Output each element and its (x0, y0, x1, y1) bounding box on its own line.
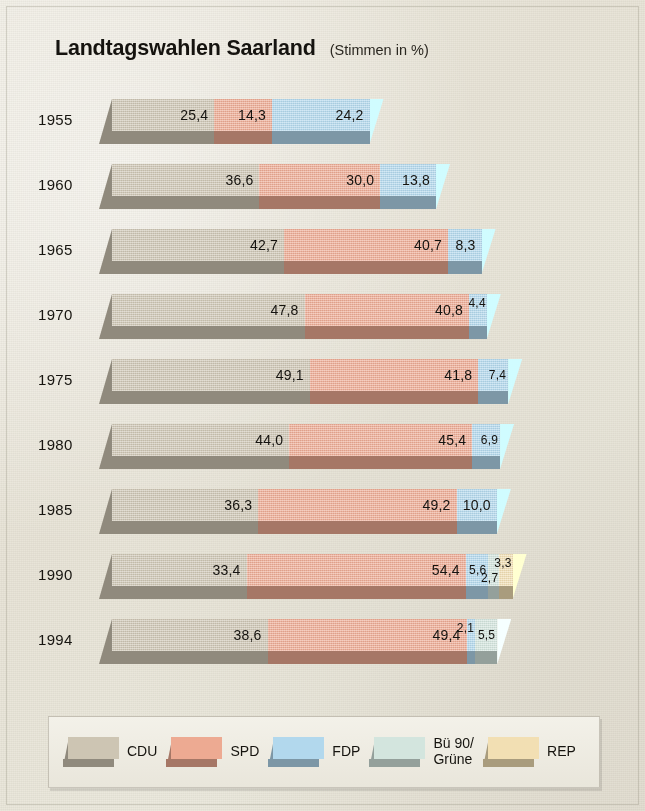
bar-left-bevel (99, 229, 112, 274)
legend-swatch (166, 737, 222, 767)
bar-bottom-face (214, 131, 272, 144)
bar-left-bevel (99, 554, 112, 599)
bar-bottom-face (499, 586, 512, 599)
segment-value-label: 2,1 (457, 621, 474, 635)
bar-segment: 7,4 (478, 359, 508, 391)
bar-row: 196542,740,78,3 (0, 222, 645, 287)
bar-bottom-face (284, 261, 448, 274)
bar-segment: 5,5 (475, 619, 497, 651)
page-title: Landtagswahlen Saarland (55, 36, 316, 61)
bar-bottom-face (380, 196, 436, 209)
bar-row: 199438,649,42,15,5 (0, 612, 645, 677)
bar-bottom-face (112, 196, 259, 209)
bar-right-cap (500, 424, 514, 469)
bar-bottom-face (488, 586, 499, 599)
bar-bottom-face (310, 391, 478, 404)
bar-bottom-face (259, 196, 380, 209)
bar-bottom-face (466, 586, 489, 599)
bar-segment: 44,0 (112, 424, 289, 456)
bar-segment: 36,6 (112, 164, 259, 196)
segment-value-label: 30,0 (346, 172, 374, 188)
bar-right-cap (508, 359, 522, 404)
segment-value-label: 33,4 (213, 562, 241, 578)
bar-bottom-face (472, 456, 500, 469)
bar-segment: 33,4 (112, 554, 247, 586)
bar-right-cap (513, 554, 527, 599)
year-label: 1965 (38, 241, 102, 258)
segment-value-label: 4,4 (468, 296, 485, 310)
bar-bottom-face (258, 521, 456, 534)
legend-label: Bü 90/Grüne (433, 736, 473, 767)
segment-value-label: 49,2 (422, 497, 450, 513)
bar-segment: 8,3 (448, 229, 481, 261)
bar-segment: 49,1 (112, 359, 310, 391)
bar-segment: 13,8 (380, 164, 436, 196)
bar-segment: 36,3 (112, 489, 258, 521)
bar-right-cap (497, 619, 511, 664)
legend-item[interactable]: SPD (166, 737, 268, 767)
chart-subtitle: (Stimmen in %) (330, 42, 429, 58)
legend-item[interactable]: REP (483, 737, 585, 767)
chart-page: Landtagswahlen Saarland (Stimmen in %) 1… (0, 0, 645, 811)
bar-bottom-face (469, 326, 487, 339)
segment-value-label: 10,0 (463, 497, 491, 513)
bar-segment: 49,4 (268, 619, 467, 651)
segment-value-label: 36,3 (224, 497, 252, 513)
segment-value-label: 2,7 (481, 571, 498, 585)
segment-value-label: 7,4 (489, 368, 506, 382)
legend-label-line2: Grüne (433, 752, 473, 768)
bar-row: 197549,141,87,4 (0, 352, 645, 417)
bar-row: 198536,349,210,0 (0, 482, 645, 547)
bar-segment: 45,4 (289, 424, 472, 456)
bar-segment: 47,8 (112, 294, 305, 326)
bar-bottom-face (478, 391, 508, 404)
chart-header: Landtagswahlen Saarland (Stimmen in %) (55, 36, 429, 61)
segment-value-label: 24,2 (335, 107, 363, 123)
bar-bottom-face (112, 651, 268, 664)
bar-segment: 6,9 (472, 424, 500, 456)
segment-value-label: 42,7 (250, 237, 278, 253)
bar-segment: 14,3 (214, 99, 272, 131)
bar-bottom-face (289, 456, 472, 469)
bar-left-bevel (99, 164, 112, 209)
bar-left-bevel (99, 99, 112, 144)
bar-bottom-face (112, 131, 214, 144)
segment-value-label: 36,6 (225, 172, 253, 188)
segment-value-label: 14,3 (238, 107, 266, 123)
bar-bottom-face (247, 586, 466, 599)
segment-value-label: 49,1 (276, 367, 304, 383)
bar-bottom-face (467, 651, 475, 664)
bar-bottom-face (457, 521, 497, 534)
bar-segment: 10,0 (457, 489, 497, 521)
legend-item[interactable]: CDU (63, 737, 166, 767)
bar-rows: 195525,414,324,2196036,630,013,8196542,7… (0, 92, 645, 677)
bar-bottom-face (112, 456, 289, 469)
bar-segment: 40,8 (305, 294, 469, 326)
legend-label: CDU (127, 744, 157, 760)
segment-value-label: 40,7 (414, 237, 442, 253)
legend-swatch (63, 737, 119, 767)
legend-item[interactable]: Bü 90/Grüne (369, 736, 483, 767)
bar-segment: 24,2 (272, 99, 370, 131)
year-label: 1955 (38, 111, 102, 128)
legend-swatch (268, 737, 324, 767)
legend-item[interactable]: FDP (268, 737, 369, 767)
bar-segment: 42,7 (112, 229, 284, 261)
bar-right-cap (482, 229, 496, 274)
bar-left-bevel (99, 359, 112, 404)
bar-segment: 30,0 (259, 164, 380, 196)
bar-row: 199033,454,45,62,73,3 (0, 547, 645, 612)
segment-value-label: 47,8 (271, 302, 299, 318)
bar-segment: 4,4 (469, 294, 487, 326)
legend-swatch (483, 737, 539, 767)
year-label: 1980 (38, 436, 102, 453)
bar-right-cap (487, 294, 501, 339)
segment-value-label: 25,4 (180, 107, 208, 123)
bar-bottom-face (112, 586, 247, 599)
segment-value-label: 13,8 (402, 172, 430, 188)
bar-bottom-face (272, 131, 370, 144)
bar-left-bevel (99, 294, 112, 339)
bar-segment: 49,2 (258, 489, 456, 521)
bar-row: 195525,414,324,2 (0, 92, 645, 157)
bar-row: 198044,045,46,9 (0, 417, 645, 482)
